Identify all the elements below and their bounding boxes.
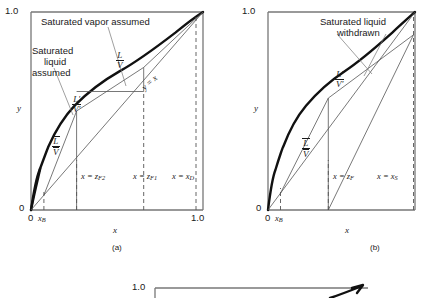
- annotation-saturated-liquid-withdrawn-line1: Saturated liquid: [320, 17, 386, 27]
- panel-a-x-max-tick: 1.0: [191, 213, 204, 223]
- annotation-saturated-liquid-line2: liquid: [44, 57, 66, 67]
- panel-b-caption: (b): [370, 244, 380, 252]
- annotation-saturated-vapor-assumed: Saturated vapor assumed: [41, 17, 150, 27]
- middle-ratio-denominator: V′: [72, 104, 81, 114]
- stripping-ratio-denominator-b: V: [302, 148, 310, 159]
- figure-mccabe-thiele: .heavy { fill:none; stroke:#111; stroke-…: [0, 0, 421, 298]
- marker-label-xD-a: x = xD: [172, 172, 194, 182]
- label-upper-ratio-b: L′ V′: [335, 70, 344, 90]
- panel-c: [155, 285, 368, 298]
- marker-label-xS-b: x = xS: [377, 172, 398, 182]
- rectifying-ratio-numerator: L: [116, 51, 124, 60]
- marker-label-xB-b: xB: [275, 214, 283, 224]
- panel-b-y-min-tick: 0: [256, 203, 261, 213]
- panel-b-x-axis-label: x: [345, 226, 349, 235]
- rectifying-op-line-a: [144, 12, 203, 67]
- upper-ratio-denominator-b: V′: [335, 79, 344, 89]
- label-stripping-ratio-a: L V: [52, 136, 60, 158]
- panel-c-y-max-tick: 1.0: [132, 282, 145, 292]
- panel-a-caption: (a): [112, 244, 122, 252]
- sidestream-line-b: [328, 35, 413, 210]
- panel-a-x-min-tick: 0: [28, 213, 33, 223]
- marker-label-zF1-a: x = zF1: [133, 172, 157, 182]
- stripping-ratio-denominator: V: [52, 146, 60, 157]
- panel-a-x-axis-label: x: [113, 226, 117, 235]
- annotation-saturated-liquid-withdrawn-line2: withdrawn: [337, 28, 380, 38]
- upper-ratio-numerator-b: L′: [335, 70, 344, 79]
- panel-b-y-axis-label: y: [254, 104, 258, 113]
- panel-b-x-min-tick: 0: [265, 213, 270, 223]
- annotation-saturated-liquid-line1: Saturated: [32, 46, 73, 56]
- annotation-saturated-liquid-line3: assumed: [32, 68, 71, 78]
- label-middle-ratio-a: L′ V′: [72, 95, 81, 115]
- stripping-ratio-numerator-b: L: [302, 139, 310, 148]
- panel-b-y-max-tick: 1.0: [242, 6, 255, 16]
- panel-a-y-min-tick: 0: [19, 203, 24, 213]
- marker-label-zF-b: x = zF: [333, 172, 354, 182]
- middle-ratio-numerator: L′: [72, 95, 81, 104]
- panel-a-y-max-tick: 1.0: [5, 6, 18, 16]
- rectifying-ratio-denominator: V: [116, 60, 124, 70]
- middle-op-line-a: [77, 67, 144, 111]
- panel-a-y-axis-label: y: [17, 104, 21, 113]
- label-stripping-ratio-b: L V: [302, 138, 310, 160]
- marker-label-xB-a: xB: [38, 214, 46, 224]
- stripping-ratio-numerator: L: [52, 137, 60, 146]
- marker-label-zF2-a: x = zF2: [81, 172, 105, 182]
- label-rectifying-ratio-a: L V: [116, 51, 124, 71]
